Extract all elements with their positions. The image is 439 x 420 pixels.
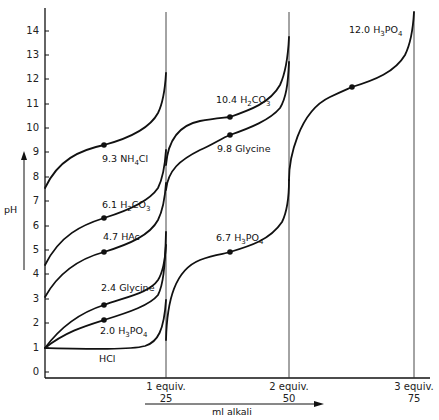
ph-arrow-head [21,151,27,160]
curve-h3po4-2 [166,180,289,340]
label-h3po4-6.7: 6.7 H3PO4 [216,232,264,246]
svg-text:75: 75 [408,393,421,404]
svg-text:25: 25 [160,393,173,404]
y-axis-title: pH [4,204,17,215]
svg-text:2: 2 [33,317,39,328]
label-h2co3-10.4: 10.4 H2CO3 [216,94,270,108]
label-nh4cl-9.3: 9.3 NH4Cl [102,153,148,167]
svg-text:5: 5 [33,244,39,255]
svg-text:1 equiv.: 1 equiv. [146,381,185,392]
curve-glycine-2 [166,62,289,190]
label-glycine-2.4: 2.4 Glycine [101,282,155,293]
y-tick-labels: 0 1 2 3 4 5 6 7 8 9 10 11 12 13 14 [26,25,39,377]
svg-text:50: 50 [283,393,296,404]
curve-h3po4-3 [289,12,414,180]
svg-text:0: 0 [33,366,39,377]
svg-text:7: 7 [33,195,39,206]
svg-text:13: 13 [26,49,39,60]
svg-text:10: 10 [26,122,39,133]
x-axis-title: ml alkali [212,406,252,417]
svg-text:8: 8 [33,171,39,182]
svg-text:1: 1 [33,342,39,353]
svg-text:14: 14 [26,25,39,36]
label-glycine-9.8: 9.8 Glycine [217,143,271,154]
svg-text:9: 9 [33,146,39,157]
svg-text:4: 4 [33,268,39,279]
svg-text:3: 3 [33,293,39,304]
ml-arrow-head [314,401,324,407]
label-hac-4.7: 4.7 HAc [103,231,140,242]
svg-text:3 equiv.: 3 equiv. [394,381,433,392]
curve-nh4cl [45,73,166,188]
label-h3po4-12.0: 12.0 H3PO4 [349,24,403,38]
svg-text:6: 6 [33,220,39,231]
x-tick-labels: 1 equiv. 25 2 equiv. 50 3 equiv. 75 [146,381,433,404]
svg-text:12: 12 [26,73,39,84]
svg-text:2 equiv.: 2 equiv. [269,381,308,392]
svg-text:11: 11 [26,98,39,109]
titration-chart: 0 1 2 3 4 5 6 7 8 9 10 11 12 13 14 pH 1 … [0,0,439,420]
label-hcl: HCl [99,353,115,364]
label-h3po4-2.0: 2.0 H3PO4 [100,325,148,339]
